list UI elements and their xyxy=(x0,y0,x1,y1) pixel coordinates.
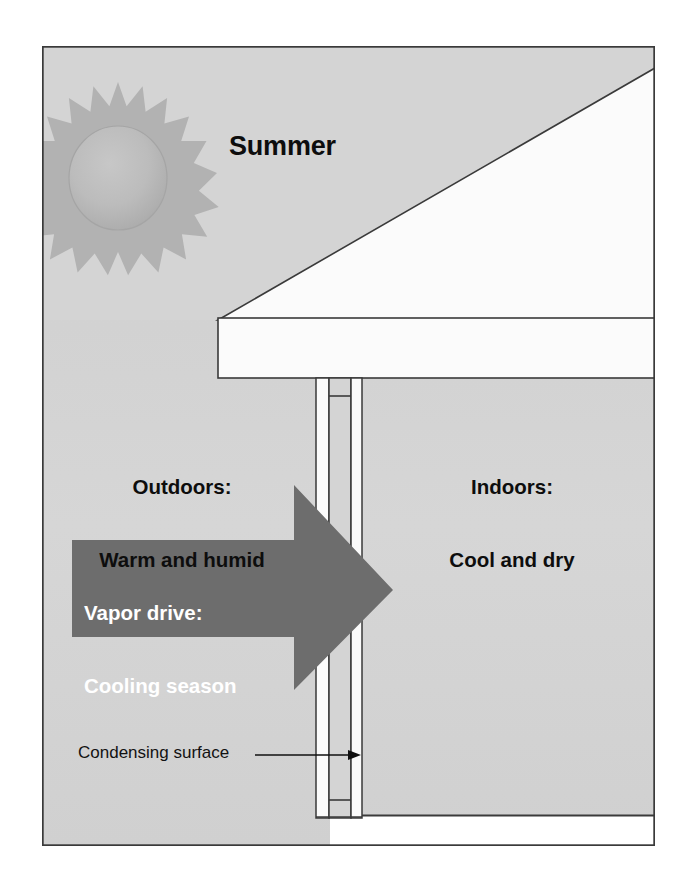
indoors-heading: Indoors: xyxy=(400,475,624,499)
vapor-drive-label: Vapor drive: Cooling season xyxy=(84,553,237,747)
condensing-surface-label: Condensing surface xyxy=(78,743,229,763)
sun-core xyxy=(69,126,167,230)
vapor-drive-line-1: Vapor drive: xyxy=(84,601,237,625)
season-label: Summer xyxy=(229,131,336,163)
indoors-description: Cool and dry xyxy=(400,548,624,572)
diagram-canvas: Summer Outdoors: Warm and humid Indoors:… xyxy=(0,0,692,882)
indoor-floor-void xyxy=(330,815,655,846)
vapor-drive-line-2: Cooling season xyxy=(84,674,237,698)
indoors-label: Indoors: Cool and dry xyxy=(400,427,624,621)
eave-soffit-box xyxy=(218,318,655,378)
outdoors-heading: Outdoors: xyxy=(70,475,294,499)
